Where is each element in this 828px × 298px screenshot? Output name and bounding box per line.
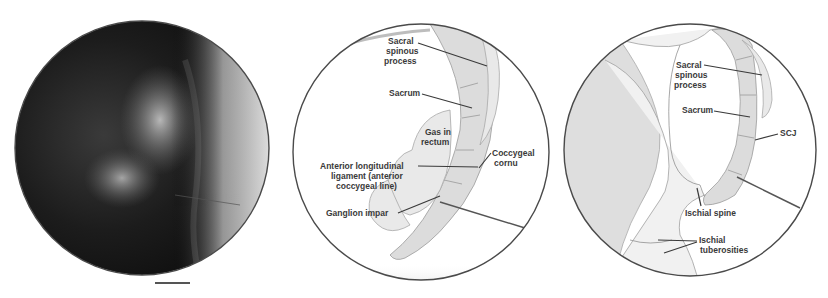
xray-soft-tissue-edge [15, 20, 275, 280]
label-sacrum: Sacrum [389, 88, 421, 98]
label-sacrum-3: Sacrum [682, 105, 714, 115]
label-ischial-spine: Ischial spine [685, 208, 736, 218]
fluoroscopy-panel [15, 20, 275, 283]
label-ganglion-impar: Ganglion impar [326, 208, 389, 218]
diagram-panel-ganglion: Sacral spinous process Sacrum Gas in rec… [290, 23, 555, 290]
label-sacral-spinous-process: Sacral spinous process [384, 36, 421, 66]
figure-canvas: Sacral spinous process Sacrum Gas in rec… [0, 0, 828, 298]
diagram-panel-pelvis: Sacral spinous process Sacrum SCJ Ischia… [560, 24, 816, 290]
label-gas-in-rectum: Gas in rectum [421, 127, 453, 147]
label-scj: SCJ [780, 128, 797, 138]
